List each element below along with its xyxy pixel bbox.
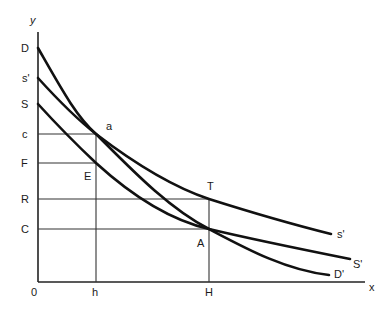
label-point-T: T [207, 180, 214, 192]
label-H: H [205, 286, 213, 298]
label-end-S-prime: S' [353, 258, 362, 270]
curve-D-D-prime [38, 48, 329, 275]
curve-s-prime [38, 78, 331, 234]
label-point-A: A [197, 237, 205, 249]
label-h: h [92, 286, 98, 298]
label-origin: 0 [31, 286, 37, 298]
label-C: C [21, 223, 29, 235]
label-s-prime: s' [22, 72, 30, 84]
label-x-axis: x [369, 281, 375, 293]
label-end-D-prime: D' [334, 268, 344, 280]
label-end-s-prime: s' [337, 228, 345, 240]
label-D: D [21, 42, 29, 54]
label-c: c [22, 128, 28, 140]
label-y-axis: y [29, 14, 37, 26]
label-R: R [21, 193, 29, 205]
label-point-a: a [106, 120, 113, 132]
label-F: F [21, 157, 28, 169]
supply-demand-diagram: D s' S c F R C y 0 h H x a E T A s' S' D… [0, 0, 389, 313]
label-point-E: E [84, 170, 91, 182]
label-S: S [21, 98, 28, 110]
